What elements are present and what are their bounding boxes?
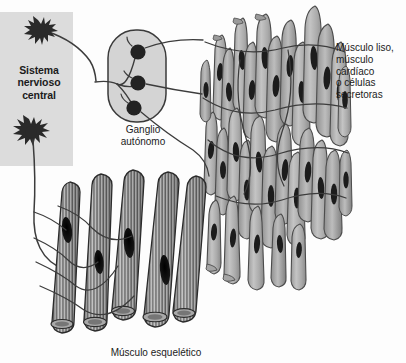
figure-canvas: Sistema nervioso central Ganglio autónom…	[0, 0, 406, 363]
ganglion-label: Ganglio autónomo	[107, 124, 179, 148]
postganglionic-neuron-2	[130, 75, 145, 90]
cns-label: Sistema nervioso central	[8, 64, 70, 101]
smooth-muscle-tissue	[200, 6, 352, 290]
autonomic-ganglion	[95, 30, 166, 122]
skeletal-muscle-tissue	[34, 170, 206, 333]
postganglionic-neuron-3	[126, 100, 141, 115]
smooth-muscle-label: Músculo liso, músculo cardíaco o células…	[336, 42, 406, 101]
postganglionic-neuron-1	[130, 44, 145, 59]
skeletal-muscle-label: Músculo esquelético	[76, 347, 236, 359]
